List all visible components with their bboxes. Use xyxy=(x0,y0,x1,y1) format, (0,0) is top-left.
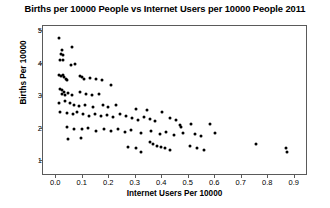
data-point xyxy=(95,77,98,80)
x-tick-mark xyxy=(214,175,215,178)
y-tick-mark xyxy=(39,160,42,161)
x-tick-label: 0.4 xyxy=(146,178,176,187)
x-axis-label: Internet Users Per 10000 xyxy=(42,189,307,198)
x-tick-label: 0.8 xyxy=(252,178,282,187)
data-point xyxy=(214,132,217,135)
y-tick-mark xyxy=(39,128,42,129)
data-point xyxy=(194,132,197,135)
data-point xyxy=(169,149,172,152)
data-point xyxy=(60,93,63,96)
data-point xyxy=(63,100,66,103)
data-point xyxy=(123,130,126,133)
data-point xyxy=(70,94,73,97)
data-point xyxy=(105,114,108,117)
data-point xyxy=(131,116,134,119)
x-tick-label: 0.0 xyxy=(40,178,70,187)
data-point xyxy=(97,92,100,95)
data-point xyxy=(103,128,106,131)
data-point xyxy=(101,78,104,81)
data-point xyxy=(140,132,143,135)
data-points-layer xyxy=(43,26,306,174)
y-tick-mark xyxy=(39,63,42,64)
data-point xyxy=(179,126,182,129)
data-point xyxy=(74,62,77,65)
x-tick-mark xyxy=(55,175,56,178)
x-tick-mark xyxy=(294,175,295,178)
x-tick-label: 0.3 xyxy=(120,178,150,187)
data-point xyxy=(58,37,61,40)
data-point xyxy=(208,122,211,125)
data-point xyxy=(77,104,80,107)
data-point xyxy=(78,91,81,94)
data-point xyxy=(80,136,83,139)
data-point xyxy=(67,137,70,140)
data-point xyxy=(195,146,198,149)
data-point xyxy=(109,84,112,87)
data-point xyxy=(145,109,148,112)
data-point xyxy=(99,115,102,118)
x-tick-mark xyxy=(267,175,268,178)
data-point xyxy=(169,116,172,119)
data-point xyxy=(285,146,288,149)
x-tick-mark xyxy=(135,175,136,178)
data-point xyxy=(101,103,104,106)
y-tick-mark xyxy=(39,30,42,31)
data-point xyxy=(65,112,68,115)
x-tick-label: 0.2 xyxy=(93,178,123,187)
data-point xyxy=(73,127,76,130)
data-point xyxy=(125,114,128,117)
x-tick-label: 0.5 xyxy=(173,178,203,187)
data-point xyxy=(71,45,74,48)
data-point xyxy=(111,115,114,118)
x-tick-label: 0.7 xyxy=(226,178,256,187)
data-point xyxy=(164,130,167,133)
data-point xyxy=(92,106,95,109)
data-point xyxy=(148,141,151,144)
data-point xyxy=(172,133,175,136)
data-point xyxy=(115,104,118,107)
data-point xyxy=(107,105,110,108)
data-point xyxy=(116,127,119,130)
data-point xyxy=(82,78,85,81)
data-point xyxy=(136,118,139,121)
x-tick-mark xyxy=(108,175,109,178)
data-point xyxy=(158,132,161,135)
data-point xyxy=(134,147,137,150)
scatter-plot-figure: Births per 10000 People vs Internet User… xyxy=(0,0,330,208)
data-point xyxy=(62,59,65,62)
data-point xyxy=(87,127,90,130)
data-point xyxy=(66,78,69,81)
data-point xyxy=(154,119,157,122)
data-point xyxy=(69,63,72,66)
data-point xyxy=(60,48,63,51)
data-point xyxy=(88,114,91,117)
x-tick-mark xyxy=(82,175,83,178)
y-tick-mark xyxy=(39,95,42,96)
data-point xyxy=(59,110,62,113)
data-point xyxy=(152,142,155,145)
data-point xyxy=(160,145,163,148)
data-point xyxy=(142,115,145,118)
data-point xyxy=(160,110,163,113)
x-tick-mark xyxy=(188,175,189,178)
data-point xyxy=(164,147,167,150)
data-point xyxy=(109,130,112,133)
x-tick-mark xyxy=(241,175,242,178)
data-point xyxy=(82,112,85,115)
data-point xyxy=(181,131,184,134)
data-point xyxy=(68,102,71,105)
data-point xyxy=(83,104,86,107)
plot-area xyxy=(42,25,307,175)
page-title: Births per 10000 People vs Internet User… xyxy=(0,3,330,14)
x-tick-label: 0.6 xyxy=(199,178,229,187)
data-point xyxy=(84,93,87,96)
data-point xyxy=(134,107,137,110)
data-point xyxy=(62,54,65,57)
data-point xyxy=(285,151,288,154)
data-point xyxy=(129,129,132,132)
data-point xyxy=(189,144,192,147)
data-point xyxy=(57,101,60,104)
data-point xyxy=(72,103,75,106)
data-point xyxy=(175,119,178,122)
data-point xyxy=(139,151,142,154)
